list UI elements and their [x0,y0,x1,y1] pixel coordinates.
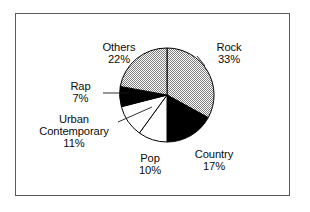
pie-label-country-name: Country [183,148,245,160]
pie-label-rap-value: 7% [58,92,103,104]
pie-label-others-value: 22% [88,53,150,65]
pie-label-rock: Rock 33% [198,41,260,65]
pie-label-urban-contemporary-name-line1: Urban [30,113,118,125]
pie-label-rock-value: 33% [198,53,260,65]
pie-label-urban-contemporary-value: 11% [30,137,118,149]
pie-label-pop-value: 10% [128,164,172,176]
pie-label-country: Country 17% [183,148,245,172]
pie-label-others: Others 22% [88,41,150,65]
pie-label-rock-name: Rock [198,41,260,53]
pie-label-rap: Rap 7% [58,80,103,104]
pie-label-pop: Pop 10% [128,152,172,176]
pie-chart [0,0,310,212]
pie-label-others-name: Others [88,41,150,53]
pie-label-pop-name: Pop [128,152,172,164]
pie-label-urban-contemporary: Urban Contemporary 11% [30,113,118,150]
pie-label-urban-contemporary-name-line2: Contemporary [30,125,118,137]
pie-label-country-value: 17% [183,160,245,172]
pie-label-rap-name: Rap [58,80,103,92]
